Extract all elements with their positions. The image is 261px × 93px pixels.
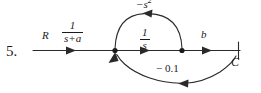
feedback-arc-upper-right xyxy=(149,14,183,49)
input-label-r: R xyxy=(42,30,49,41)
output-gain-b: b xyxy=(201,29,207,40)
feedback-upper-base: −s xyxy=(136,0,148,10)
gain-1-over-s-plus-a: 1 s+a xyxy=(62,20,83,44)
gain-1-over-s: 1 s xyxy=(140,27,150,51)
arrowhead-feedback-lower xyxy=(178,80,189,88)
arrowhead-output-branch xyxy=(202,47,212,55)
diagram-canvas xyxy=(0,0,261,93)
output-label-c: C xyxy=(231,56,239,68)
gain-1-numerator: 1 xyxy=(62,20,83,32)
arrowhead-input-branch xyxy=(66,47,76,55)
feedback-arc-lower-right xyxy=(184,56,236,83)
gain-1-denominator: s+a xyxy=(62,32,83,45)
signal-flow-diagram: 5. R 1 s+a 1 s xyxy=(0,0,261,93)
feedback-gain-upper: −s2 xyxy=(136,0,152,10)
feedback-gain-lower: − 0.1 xyxy=(156,63,179,74)
arrowhead-feedback-upper xyxy=(143,10,153,18)
feedback-upper-exponent: 2 xyxy=(148,0,152,5)
gain-2-numerator: 1 xyxy=(140,27,150,39)
arrowhead-feedback-into-node xyxy=(109,52,119,63)
gain-2-denominator: s xyxy=(140,39,150,52)
